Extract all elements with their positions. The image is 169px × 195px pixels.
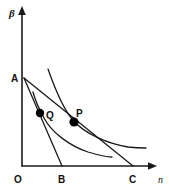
x-axis-label: n bbox=[158, 174, 163, 185]
point-marker-q bbox=[36, 109, 44, 117]
point-label-c: C bbox=[129, 174, 136, 185]
figure-container: β n A O B C Q P bbox=[0, 0, 169, 195]
y-axis-label: β bbox=[8, 7, 15, 19]
point-label-p: P bbox=[76, 108, 83, 119]
point-label-b: B bbox=[58, 174, 65, 185]
indifference-curve-diagram: β n A O B C Q P bbox=[0, 0, 169, 195]
x-axis-arrow-icon bbox=[148, 162, 157, 170]
point-label-a: A bbox=[11, 73, 18, 84]
origin-label: O bbox=[14, 174, 22, 185]
point-label-q: Q bbox=[46, 110, 54, 121]
y-axis-arrow-icon bbox=[18, 6, 26, 15]
